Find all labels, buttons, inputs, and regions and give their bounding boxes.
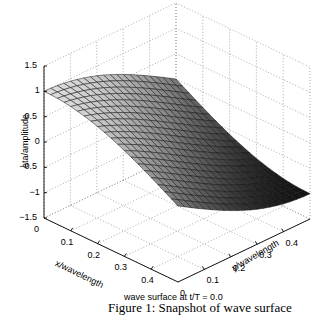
x-tick-label: 0.1: [61, 237, 74, 247]
z-axis-label: eta/amplitude: [20, 106, 30, 176]
x-tick-label: 0.2: [88, 250, 101, 260]
z-tick-label: 1: [35, 85, 40, 95]
z-tick-label: −1.5: [19, 212, 37, 222]
z-tick-label: 0: [35, 136, 40, 146]
figure-caption: Figure 1: Snapshot of wave surface: [108, 300, 292, 316]
z-tick-label: −1: [30, 187, 40, 197]
y-tick-label: 0.4: [286, 238, 299, 248]
wave-surface-mesh: [44, 74, 310, 210]
x-tick-label: 0.3: [114, 262, 127, 272]
x-tick-label: 0.4: [141, 275, 154, 285]
y-tick-label: 0.1: [206, 275, 219, 285]
z-tick-label: 1.5: [24, 60, 37, 70]
x-tick-label: 0: [34, 224, 39, 234]
